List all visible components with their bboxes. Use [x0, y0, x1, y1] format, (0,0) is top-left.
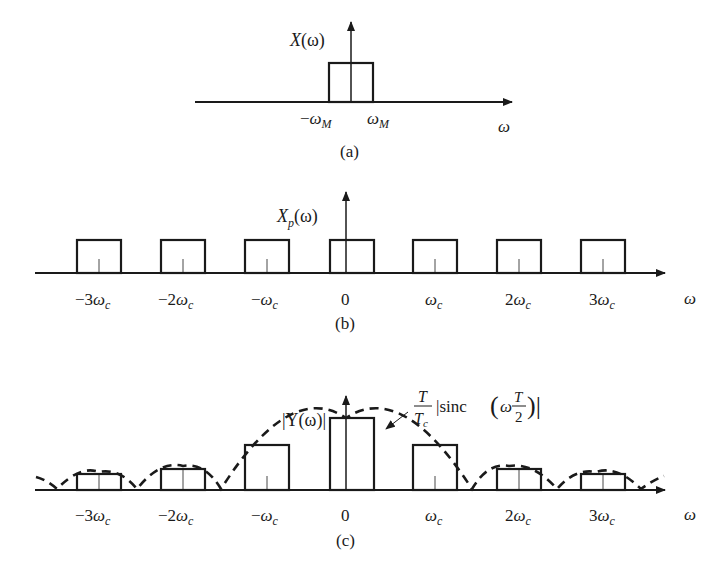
panel-c: |Y(ω)| T Tc |sinc ( ω T 2 )| −3ωc −2ωc −…	[35, 388, 696, 550]
caption-c: (c)	[336, 531, 355, 550]
y-label-c: |Y(ω)|	[282, 410, 326, 431]
x-axis-label-c: ω	[684, 505, 696, 524]
omega-sym: ω	[500, 397, 512, 416]
caption-b: (b)	[335, 314, 355, 333]
sinc-envelope-dashed	[36, 408, 664, 489]
y-label-b: Xp(ω)	[276, 206, 318, 230]
sinc-text: |sinc	[436, 397, 467, 416]
figure-canvas: X(ω) −ωM ωM ω (a) Xp(ω) −3ωc −2ω	[0, 0, 707, 564]
panel-b: Xp(ω) −3ωc −2ωc −ωc 0 ωc 2ωc 3ωc ω (b)	[35, 192, 696, 333]
paren-close: )|	[527, 391, 541, 420]
tick-label: −3ωc	[75, 290, 111, 312]
frac-den: Tc	[414, 410, 428, 429]
x-axis-label-a: ω	[498, 117, 510, 136]
annotation-arrow	[386, 412, 408, 429]
inner-num: T	[514, 389, 524, 405]
x-axis-label-b: ω	[684, 289, 696, 308]
tick-label: ωc	[425, 290, 443, 312]
tick-label: 3ωc	[589, 290, 616, 312]
tick-labels-b: −3ωc −2ωc −ωc 0 ωc 2ωc 3ωc	[75, 290, 616, 312]
tick-label: −ωc	[251, 290, 279, 312]
tick-label: 2ωc	[505, 290, 532, 312]
center-ticks-b	[99, 259, 603, 273]
inner-den: 2	[515, 409, 523, 425]
pulse-b-0	[330, 240, 374, 273]
paren-open: (	[490, 391, 499, 420]
tick-label: 0	[341, 506, 350, 525]
tick-label: −2ωc	[158, 506, 194, 528]
tick-label: 0	[341, 290, 350, 309]
tick-labels-c: −3ωc −2ωc −ωc 0 ωc 2ωc 3ωc	[75, 506, 616, 528]
tick-omega-m: ωM	[367, 109, 390, 131]
tick-label: ωc	[425, 506, 443, 528]
panel-a: X(ω) −ωM ωM ω (a)	[195, 22, 512, 161]
center-ticks-c	[99, 469, 603, 490]
tick-label: −ωc	[251, 506, 279, 528]
tick-label: −3ωc	[75, 506, 111, 528]
tick-label: 2ωc	[505, 506, 532, 528]
tick-label: 3ωc	[589, 506, 616, 528]
sampled-pulses-c	[77, 418, 625, 490]
y-label-a: X(ω)	[289, 30, 325, 51]
pulse-train-b	[77, 240, 625, 273]
tick-label: −2ωc	[158, 290, 194, 312]
tick-neg-omega-m: −ωM	[300, 109, 333, 131]
frac-num: T	[418, 388, 428, 405]
pulse-c-0	[330, 418, 374, 490]
caption-a: (a)	[340, 142, 359, 161]
sinc-annotation: T Tc |sinc ( ω T 2 )|	[386, 388, 541, 429]
